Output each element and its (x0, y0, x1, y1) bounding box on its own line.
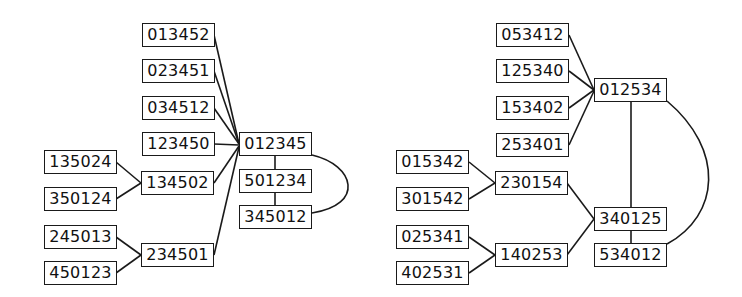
node-023451: 023451 (142, 59, 215, 83)
node-140253: 140253 (495, 243, 568, 267)
node-234501: 234501 (141, 243, 214, 267)
node-012534: 012534 (594, 78, 667, 102)
node-450123: 450123 (44, 261, 117, 285)
node-015342: 015342 (396, 150, 469, 174)
node-402531: 402531 (396, 261, 469, 285)
edge-135024-134502 (116, 162, 141, 183)
edge-123450-012345 (214, 144, 239, 145)
node-123450: 123450 (142, 132, 215, 156)
edge-402531-140253 (469, 255, 495, 273)
permutation-graph-diagram: 0134520234510345121234500123451350241345… (0, 0, 742, 297)
node-034512: 034512 (142, 96, 215, 120)
node-134502: 134502 (141, 171, 214, 195)
node-053412: 053412 (496, 23, 569, 47)
edge-301542-230154 (469, 183, 495, 199)
node-153402: 153402 (496, 96, 569, 120)
edge-012345-345012 (312, 155, 348, 213)
edge-350124-134502 (116, 183, 141, 199)
edge-013452-012345 (214, 35, 239, 144)
edge-015342-230154 (469, 162, 495, 183)
edge-012534-534012 (667, 101, 709, 244)
node-301542: 301542 (396, 187, 469, 211)
edge-025341-140253 (469, 237, 495, 255)
node-534012: 534012 (594, 243, 667, 267)
edge-450123-234501 (116, 255, 141, 273)
node-501234: 501234 (239, 169, 312, 193)
edge-230154-340125 (567, 183, 594, 219)
edge-023451-012345 (214, 71, 239, 144)
node-253401: 253401 (496, 133, 569, 157)
edge-140253-340125 (567, 219, 594, 255)
node-345012: 345012 (239, 205, 312, 229)
edge-245013-234501 (116, 237, 141, 255)
node-125340: 125340 (496, 59, 569, 83)
node-012345: 012345 (239, 132, 312, 156)
edge-053412-012534 (569, 35, 594, 90)
node-245013: 245013 (44, 225, 117, 249)
node-340125: 340125 (594, 207, 667, 231)
node-025341: 025341 (396, 225, 469, 249)
node-013452: 013452 (142, 23, 215, 47)
node-135024: 135024 (44, 150, 117, 174)
node-350124: 350124 (44, 187, 117, 211)
node-230154: 230154 (495, 171, 568, 195)
